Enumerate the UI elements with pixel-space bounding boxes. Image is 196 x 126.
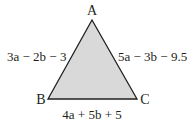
vertex-label-c: C bbox=[140, 92, 149, 107]
side-label-bc: 4a + 5b + 5 bbox=[62, 107, 121, 122]
side-label-ab: 3a − 2b − 3 bbox=[7, 49, 66, 64]
triangle-diagram: A B C 3a − 2b − 3 5a − 3b − 9.5 4a + 5b … bbox=[0, 0, 196, 126]
side-label-ac: 5a − 3b − 9.5 bbox=[118, 49, 187, 64]
vertex-label-a: A bbox=[87, 3, 98, 18]
vertex-label-b: B bbox=[36, 92, 45, 107]
